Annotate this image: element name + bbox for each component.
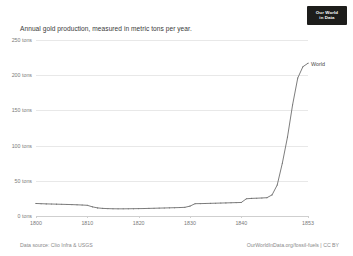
- data-point: [282, 163, 283, 164]
- series-line-world: [36, 63, 308, 209]
- chart-title: Annual gold production, measured in metr…: [20, 25, 192, 32]
- data-point: [153, 208, 154, 209]
- data-point: [292, 104, 293, 105]
- data-point: [205, 203, 206, 204]
- x-axis-line: [36, 216, 308, 217]
- x-axis-tick-label: 1820: [133, 220, 145, 226]
- data-point: [123, 208, 124, 209]
- data-point: [179, 207, 180, 208]
- data-point: [102, 208, 103, 209]
- data-point: [148, 208, 149, 209]
- chart-container: Our World in Data Annual gold production…: [0, 0, 353, 256]
- data-point: [77, 204, 78, 205]
- x-axis-tick-label: 1853: [302, 220, 314, 226]
- x-axis-tick-mark: [190, 216, 191, 218]
- data-point: [184, 207, 185, 208]
- series-label-world: World: [311, 61, 325, 67]
- data-point: [189, 206, 190, 207]
- data-point: [138, 208, 139, 209]
- data-point: [133, 208, 134, 209]
- x-axis-tick-label: 1840: [235, 220, 247, 226]
- data-point: [225, 202, 226, 203]
- data-point: [236, 202, 237, 203]
- data-point: [66, 204, 67, 205]
- x-axis-tick-mark: [36, 216, 37, 218]
- data-point: [261, 197, 262, 198]
- data-point: [277, 184, 278, 185]
- data-point: [164, 207, 165, 208]
- x-axis-tick-mark: [139, 216, 140, 218]
- data-point: [174, 207, 175, 208]
- data-point: [92, 206, 93, 207]
- x-axis-tick-mark: [87, 216, 88, 218]
- data-point: [200, 203, 201, 204]
- x-axis-tick-mark: [308, 216, 309, 218]
- x-axis-tick-label: 1800: [30, 220, 42, 226]
- our-world-in-data-logo[interactable]: Our World in Data: [307, 6, 347, 25]
- data-point: [230, 202, 231, 203]
- logo-line-2: in Data: [319, 16, 334, 21]
- data-point: [107, 208, 108, 209]
- data-point: [82, 204, 83, 205]
- x-axis-tick-label: 1810: [81, 220, 93, 226]
- data-point: [87, 205, 88, 206]
- data-point: [266, 197, 267, 198]
- y-axis-tick-label: 200 tons: [12, 72, 32, 78]
- data-point: [287, 137, 288, 138]
- x-axis-tick-label: 1830: [184, 220, 196, 226]
- chart-footer: Data source: Clio Infra & USGS OurWorldI…: [20, 242, 339, 248]
- data-point: [159, 208, 160, 209]
- data-point: [169, 207, 170, 208]
- y-axis-tick-label: 100 tons: [12, 143, 32, 149]
- data-point: [41, 203, 42, 204]
- data-point: [272, 194, 273, 195]
- plot-area: 250 tons200 tons150 tons100 tons50 tons0…: [36, 40, 308, 216]
- data-point: [143, 208, 144, 209]
- data-point: [118, 208, 119, 209]
- data-point: [246, 198, 247, 199]
- attribution-note[interactable]: OurWorldInData.org/fossil-fuels | CC BY: [247, 242, 339, 248]
- data-point: [97, 207, 98, 208]
- data-point: [61, 204, 62, 205]
- data-point: [256, 198, 257, 199]
- y-axis-tick-label: 250 tons: [12, 37, 32, 43]
- data-point: [56, 204, 57, 205]
- data-point: [46, 203, 47, 204]
- data-point: [215, 203, 216, 204]
- data-point: [112, 208, 113, 209]
- data-point: [251, 198, 252, 199]
- data-point: [51, 203, 52, 204]
- data-point: [71, 204, 72, 205]
- data-point: [302, 66, 303, 67]
- y-axis-tick-label: 50 tons: [15, 178, 32, 184]
- y-axis-tick-label: 0 tons: [18, 213, 32, 219]
- data-series-group: [36, 40, 308, 216]
- data-point: [128, 208, 129, 209]
- data-point: [297, 77, 298, 78]
- data-source-note: Data source: Clio Infra & USGS: [20, 242, 93, 248]
- data-point: [210, 203, 211, 204]
- x-axis-tick-mark: [241, 216, 242, 218]
- data-point: [307, 63, 308, 64]
- data-point: [35, 203, 36, 204]
- data-point: [220, 203, 221, 204]
- data-point: [195, 203, 196, 204]
- data-point: [241, 202, 242, 203]
- y-axis-tick-label: 150 tons: [12, 107, 32, 113]
